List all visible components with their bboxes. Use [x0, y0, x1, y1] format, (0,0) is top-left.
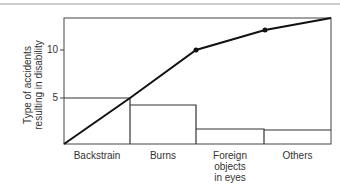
- point-foreign: [263, 28, 268, 33]
- bar-burns: [130, 105, 196, 144]
- y-tick-10: 10: [42, 44, 58, 55]
- plot-frame: [64, 18, 331, 144]
- x-label-backstrain: Backstrain: [64, 150, 130, 161]
- x-label-foreign: Foreign objects in eyes: [196, 150, 264, 183]
- x-label-foreign-2: objects: [196, 161, 264, 172]
- x-label-foreign-3: in eyes: [196, 172, 264, 183]
- y-label-line1: Type of accidents: [22, 15, 33, 155]
- point-burns: [194, 48, 199, 53]
- y-tick-5: 5: [42, 92, 58, 103]
- bar-foreign-objects: [196, 129, 264, 144]
- cumulative-line: [64, 18, 331, 144]
- y-axis-label: Type of accidents resulting in disabilit…: [22, 15, 44, 155]
- x-label-others: Others: [264, 150, 331, 161]
- x-label-burns: Burns: [130, 150, 196, 161]
- y-label-line2: resulting in disability: [33, 15, 44, 155]
- bars: [64, 98, 331, 144]
- x-label-foreign-1: Foreign: [196, 150, 264, 161]
